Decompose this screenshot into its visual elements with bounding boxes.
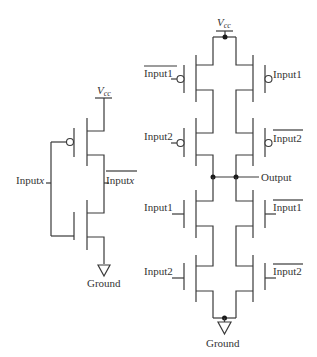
pmos-bubble-icon	[265, 140, 272, 147]
xor-nmos-left-2: Input2	[144, 255, 213, 318]
pmos-bubble-icon	[265, 76, 272, 83]
xor-pmos-right-1: Input1	[236, 37, 302, 133]
xor-ground-icon	[218, 322, 231, 334]
inverter-pmos-transistor	[51, 98, 104, 200]
pmos-bubble-icon	[177, 76, 184, 83]
xor-vcc-label: Vcc	[217, 16, 231, 30]
inverter-nmos-transistor	[51, 200, 104, 264]
xor-pmos-right-2: Input2	[236, 118, 303, 177]
xor-vcc-node-icon	[223, 35, 228, 40]
xor-pmos-left-2-label: Input2	[144, 130, 173, 142]
xor-pmos-left-1-label: Input1	[144, 67, 173, 79]
xor-nmos-right-2-label: Input2	[273, 265, 302, 277]
inverter-input-label: Inputx	[16, 174, 44, 186]
inverter-ground-icon	[98, 265, 110, 276]
inverter-output-label: Inputx	[106, 174, 134, 186]
xor-pmos-left-1: Input1	[144, 37, 213, 133]
cmos-inverter: Vcc Inputx Inputx Ground	[16, 84, 137, 289]
xor-pmos-left-2: Input2	[144, 118, 213, 177]
xor-nmos-right-1-label: Input1	[273, 201, 302, 213]
xor-ground-label: Ground	[206, 337, 240, 349]
xor-output-label: Output	[261, 171, 292, 183]
inverter-pmos-bubble-icon	[67, 139, 74, 146]
inverter-ground-label: Ground	[87, 277, 121, 289]
inverter-vcc-label: Vcc	[97, 84, 111, 98]
pmos-bubble-icon	[177, 140, 184, 147]
xor-nmos-left-1: Input1	[144, 177, 213, 266]
cmos-circuit-diagram: Vcc Inputx Inputx Ground	[0, 0, 317, 357]
xor-nmos-left-1-label: Input1	[144, 201, 173, 213]
cmos-xor-gate: Vcc Input1 Input2	[144, 16, 303, 349]
xor-nmos-left-2-label: Input2	[144, 265, 173, 277]
xor-nmos-right-1: Input1	[236, 177, 303, 266]
xor-nmos-right-2: Input2	[236, 255, 303, 318]
xor-pmos-right-2-label: Input2	[273, 132, 302, 144]
xor-pmos-right-1-label: Input1	[273, 68, 302, 80]
